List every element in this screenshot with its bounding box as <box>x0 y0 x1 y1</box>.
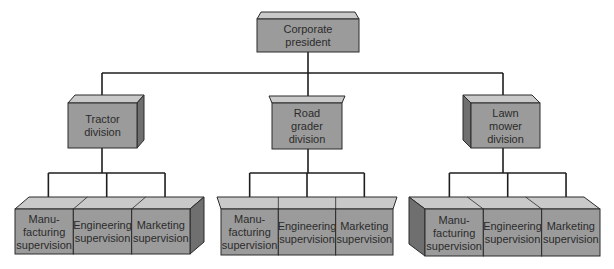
supervision-top-face <box>15 197 204 209</box>
supervision-node: Engineeringsupervision <box>483 220 542 245</box>
supervision-label-line: supervision <box>337 233 393 245</box>
root-label-line: president <box>285 36 330 48</box>
division-label-line: Lawn <box>492 107 518 119</box>
supervision-node: Marketingsupervision <box>543 220 599 245</box>
division-side-face <box>137 95 144 148</box>
org-chart: CorporatepresidentTractordivisionManu-fa… <box>0 0 614 269</box>
division-label-line: division <box>487 133 524 145</box>
division-label-line: division <box>84 126 121 138</box>
supervision-label-line: Engineering <box>278 220 337 232</box>
boxes: CorporatepresidentTractordivisionManu-fa… <box>15 12 600 256</box>
division-label-line: division <box>289 133 326 145</box>
supervision-label-line: Marketing <box>137 219 185 231</box>
supervision-label-line: supervision <box>222 239 278 251</box>
supervision-label-line: Engineering <box>483 220 542 232</box>
division-node-road-grader: Roadgraderdivision <box>269 96 345 149</box>
division-label-line: Tractor <box>85 113 120 125</box>
division-top-face <box>463 95 540 103</box>
supervision-top-face <box>409 197 600 209</box>
supervision-node: Engineeringsupervision <box>73 219 132 244</box>
supervision-group-lawn-mower: Manu-facturingsupervisionEngineeringsupe… <box>409 197 600 256</box>
division-node-tractor: Tractordivision <box>68 95 144 148</box>
division-side-face <box>463 95 471 148</box>
supervision-label-line: Manu- <box>234 213 266 225</box>
supervision-label-line: Manu- <box>439 214 471 226</box>
division-top-face <box>68 95 144 103</box>
division-top-face <box>269 96 345 103</box>
root-top-face <box>257 12 359 19</box>
supervision-group-road-grader: Manu-facturingsupervisionEngineeringsupe… <box>217 197 397 255</box>
division-label-line: grader <box>291 120 323 132</box>
supervision-label-line: facturing <box>229 226 271 238</box>
root-node: Corporatepresident <box>257 12 359 52</box>
supervision-node: Marketingsupervision <box>337 220 393 245</box>
supervision-label-line: supervision <box>485 233 541 245</box>
division-label-line: mower <box>489 120 522 132</box>
supervision-label-line: supervision <box>16 239 72 251</box>
division-node-lawn-mower: Lawnmowerdivision <box>463 95 540 148</box>
supervision-label-line: facturing <box>23 226 65 238</box>
supervision-label-line: supervision <box>543 233 599 245</box>
supervision-label-line: supervision <box>279 233 335 245</box>
supervision-label-line: supervision <box>75 232 131 244</box>
supervision-node: Engineeringsupervision <box>278 220 337 245</box>
supervision-label-line: facturing <box>433 227 475 239</box>
division-label-line: Road <box>294 107 320 119</box>
supervision-label-line: Marketing <box>547 220 595 232</box>
supervision-node: Marketingsupervision <box>133 219 189 244</box>
root-label-line: Corporate <box>284 23 333 35</box>
supervision-label-line: supervision <box>133 232 189 244</box>
supervision-label-line: Marketing <box>340 220 388 232</box>
supervision-group-tractor: Manu-facturingsupervisionEngineeringsupe… <box>15 197 204 254</box>
supervision-label-line: Engineering <box>73 219 132 231</box>
supervision-top-face <box>217 197 397 209</box>
supervision-label-line: supervision <box>426 240 482 252</box>
supervision-label-line: Manu- <box>29 213 61 225</box>
